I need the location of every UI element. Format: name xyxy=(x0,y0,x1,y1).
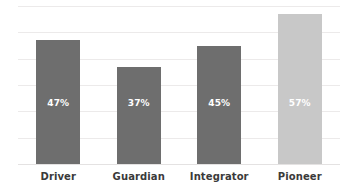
bar-chart: 47%37%45%57% DriverGuardianIntegratorPio… xyxy=(0,0,356,194)
category-label-integrator: Integrator xyxy=(179,170,260,184)
category-label-driver: Driver xyxy=(18,170,99,184)
bar-integrator[interactable]: 45% xyxy=(197,46,241,165)
gridline xyxy=(18,6,340,7)
bar-pioneer[interactable]: 57% xyxy=(278,14,322,164)
bar-guardian[interactable]: 37% xyxy=(117,67,161,164)
plot-area: 47%37%45%57% xyxy=(18,6,340,164)
axis-baseline xyxy=(18,164,340,165)
bar-value-label: 45% xyxy=(197,99,241,108)
bar-value-label: 47% xyxy=(36,99,80,108)
bar-driver[interactable]: 47% xyxy=(36,40,80,164)
bar-value-label: 37% xyxy=(117,99,161,108)
category-label-guardian: Guardian xyxy=(99,170,180,184)
bar-value-label: 57% xyxy=(278,99,322,108)
category-label-pioneer: Pioneer xyxy=(260,170,341,184)
category-axis: DriverGuardianIntegratorPioneer xyxy=(0,170,356,194)
